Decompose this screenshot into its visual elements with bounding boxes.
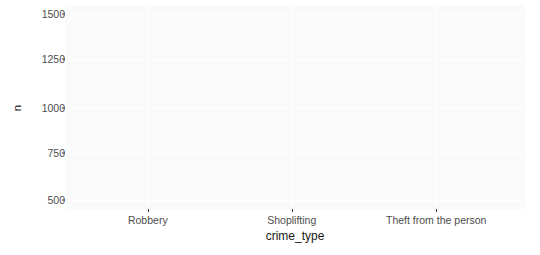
gridline-horizontal-minor [65, 130, 525, 131]
x-tick-mark [148, 209, 149, 212]
gridline-horizontal-minor [65, 177, 525, 178]
x-tick-mark [436, 209, 437, 212]
x-tick-label: Robbery [128, 214, 168, 226]
y-axis-title-text: n [11, 104, 23, 110]
x-tick-label: Shoplifting [267, 214, 316, 226]
gridline-horizontal-major [65, 14, 525, 15]
x-tick-mark [292, 209, 293, 212]
y-tick-label: 1500 [31, 8, 65, 20]
gridline-vertical-major [436, 5, 437, 209]
gridline-horizontal-major [65, 200, 525, 201]
y-tick-label: 500 [31, 194, 65, 206]
gridline-vertical-major [292, 5, 293, 209]
gridline-horizontal-minor [65, 84, 525, 85]
gridline-vertical-major [148, 5, 149, 209]
chart-figure: n 1500 1250 1000 750 500 Robbery [0, 0, 540, 255]
y-tick-label: 750 [31, 147, 65, 159]
gridline-horizontal-major [65, 59, 525, 60]
plot-panel [65, 5, 525, 209]
y-tick-label: 1250 [31, 53, 65, 65]
y-tick-label: 1000 [31, 102, 65, 114]
gridline-horizontal-major [65, 153, 525, 154]
x-axis-title: crime_type [65, 229, 525, 243]
gridline-horizontal-minor [65, 36, 525, 37]
gridline-horizontal-major [65, 108, 525, 109]
x-tick-label: Theft from the person [386, 214, 486, 226]
y-axis: 1500 1250 1000 750 500 [27, 5, 65, 209]
